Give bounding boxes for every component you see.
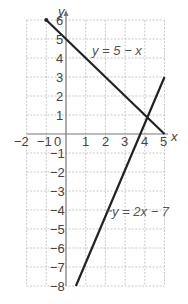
endpoint-dot [44, 18, 48, 22]
svg-text:5: 5 [160, 134, 167, 149]
svg-text:3: 3 [121, 134, 128, 149]
x-axis-label: x [170, 129, 178, 144]
graph: y x y = 5 − x y = 2x − 7 −2 −1 0 1 2 3 4… [0, 0, 188, 304]
svg-text:−6: −6 [50, 241, 65, 256]
svg-text:−4: −4 [50, 203, 65, 218]
svg-text:6: 6 [56, 13, 63, 28]
svg-text:1: 1 [56, 108, 63, 123]
svg-text:2: 2 [102, 134, 109, 149]
svg-text:1: 1 [82, 134, 89, 149]
grid [27, 20, 165, 286]
svg-text:−5: −5 [50, 222, 65, 237]
svg-text:−1: −1 [50, 146, 65, 161]
equation-label-2: y = 2x − 7 [111, 204, 170, 219]
svg-text:−7: −7 [50, 260, 65, 275]
svg-text:4: 4 [141, 134, 148, 149]
svg-text:5: 5 [56, 32, 63, 47]
y-tick-labels: 6 5 4 3 2 1 −1 −2 −3 −4 −5 −6 −7 −8 [50, 13, 65, 294]
svg-text:−2: −2 [14, 134, 29, 149]
x-tick-labels: −2 −1 0 1 2 3 4 5 [14, 134, 167, 149]
svg-text:2: 2 [56, 89, 63, 104]
svg-text:−3: −3 [50, 184, 65, 199]
svg-text:−2: −2 [50, 165, 65, 180]
line-y-equals-2x-minus-7 [76, 77, 165, 286]
svg-text:−8: −8 [50, 279, 65, 294]
equation-label-1: y = 5 − x [91, 43, 142, 58]
svg-text:3: 3 [56, 70, 63, 85]
svg-text:4: 4 [56, 51, 63, 66]
